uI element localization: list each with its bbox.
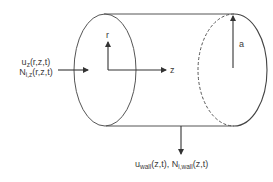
z-axis-label: z	[170, 65, 175, 75]
cylinder-diagram	[0, 0, 273, 182]
outlet-cross-section-visible	[234, 14, 267, 126]
outlet-cross-section-hidden	[198, 14, 234, 126]
inlet-flux-label: Ni,z(r,z,t)	[14, 67, 58, 77]
wall-label: uwall(z,t), Ni,wall(z,t)	[135, 159, 208, 169]
wall-velocity-label: uwall(z,t),	[135, 159, 169, 169]
radius-label: a	[239, 39, 244, 49]
r-axis-label: r	[106, 30, 109, 40]
inlet-velocity-label: uz(r,z,t)	[14, 57, 58, 67]
wall-flux-label: Ni,wall(z,t)	[172, 159, 208, 169]
inlet-label: uz(r,z,t) Ni,z(r,z,t)	[14, 57, 58, 77]
